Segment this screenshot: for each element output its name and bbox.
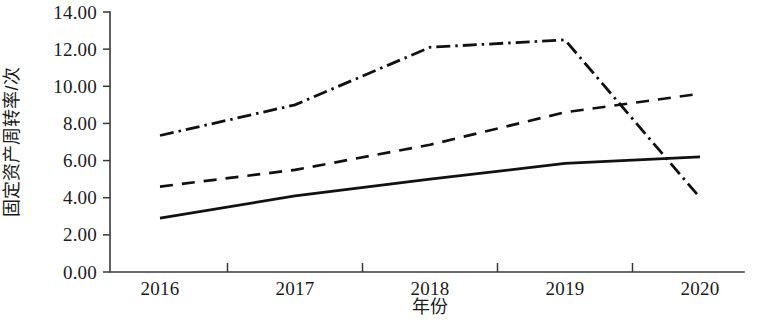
y-axis-tick-label: 14.00 xyxy=(53,2,97,23)
line-chart: 0.002.004.006.008.0010.0012.0014.00 2016… xyxy=(0,0,760,322)
y-axis-tick-label: 10.00 xyxy=(53,76,97,97)
series-dash-dot xyxy=(160,40,700,198)
y-axis-tick-label: 4.00 xyxy=(63,187,97,208)
series-lines xyxy=(160,40,700,218)
x-axis-tick-label: 2017 xyxy=(276,278,315,299)
x-axis-tick-label: 2018 xyxy=(411,278,450,299)
axis-tick-marks xyxy=(103,12,633,272)
x-axis-title: 年份 xyxy=(412,297,448,317)
y-axis-tick-labels: 0.002.004.006.008.0010.0012.0014.00 xyxy=(53,2,97,283)
y-axis-tick-label: 8.00 xyxy=(63,113,97,134)
y-axis-tick-label: 0.00 xyxy=(63,262,97,283)
x-axis-tick-label: 2016 xyxy=(141,278,180,299)
chart-figure: 0.002.004.006.008.0010.0012.0014.00 2016… xyxy=(0,0,760,322)
axis-lines xyxy=(110,12,744,272)
y-axis-tick-label: 12.00 xyxy=(53,39,97,60)
x-axis-tick-labels: 20162017201820192020 xyxy=(141,278,720,299)
x-axis-tick-label: 2019 xyxy=(546,278,585,299)
y-axis-tick-label: 2.00 xyxy=(63,224,97,245)
y-axis-title: 固定资产周转率/次 xyxy=(2,67,22,216)
series-solid xyxy=(160,157,700,218)
x-axis-tick-label: 2020 xyxy=(681,278,720,299)
series-dashed xyxy=(160,94,700,187)
y-axis-tick-label: 6.00 xyxy=(63,150,97,171)
